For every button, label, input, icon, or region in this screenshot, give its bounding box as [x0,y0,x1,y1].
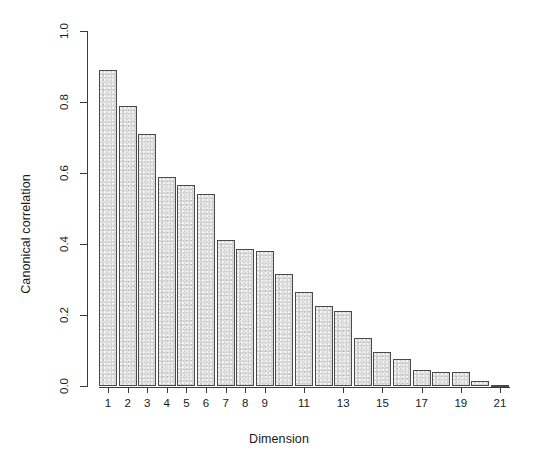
x-axis-tick-label: 11 [289,396,319,410]
x-axis-tick [265,387,266,393]
y-axis-tick [80,386,88,387]
bar [491,385,509,387]
bar [295,292,313,386]
bar [197,194,215,386]
y-axis-label: Canonical correlation [14,0,38,468]
bar [432,372,450,386]
x-axis-tick-label: 13 [328,396,358,410]
x-axis-tick-label: 9 [250,396,280,410]
y-axis-tick-label-wrap: 0.6 [52,166,76,180]
bar [354,338,372,386]
bar-chart: Canonical correlation Dimension 0.00.20.… [0,0,558,468]
bar [99,70,117,386]
bar [236,249,254,386]
x-axis-tick [186,387,187,393]
y-axis-tick-label-wrap: 0.8 [52,95,76,109]
y-axis-line [87,31,88,386]
x-axis-tick [422,387,423,393]
x-axis-label: Dimension [0,432,558,446]
x-axis-tick [226,387,227,393]
bar [217,240,235,386]
y-axis-tick-label: 0.2 [57,295,71,335]
x-axis-tick-label: 17 [407,396,437,410]
bar [315,306,333,386]
y-axis-tick [80,315,88,316]
x-axis-tick [500,387,501,393]
bar [334,311,352,386]
bar [413,370,431,386]
bar [471,381,489,386]
y-axis-tick-label: 1.0 [57,11,71,51]
y-axis-tick-label: 0.4 [57,224,71,264]
bar [138,134,156,386]
x-axis-tick-label: 15 [367,396,397,410]
bar [275,274,293,386]
y-axis-tick-label-wrap: 0.4 [52,237,76,251]
x-axis-tick [343,387,344,393]
x-axis-tick [461,387,462,393]
bar [373,352,391,386]
y-axis-tick [80,244,88,245]
x-axis-tick [304,387,305,393]
y-axis-tick-label: 0.6 [57,153,71,193]
x-axis-tick [245,387,246,393]
x-axis-tick [167,387,168,393]
y-axis-tick-label: 0.8 [57,82,71,122]
x-axis-tick [206,387,207,393]
y-axis-tick [80,102,88,103]
y-axis-tick-label-wrap: 1.0 [52,24,76,38]
y-axis-tick-label-wrap: 0.2 [52,308,76,322]
y-axis-tick-label: 0.0 [57,366,71,406]
bar [158,177,176,386]
x-axis-tick [382,387,383,393]
x-axis-tick [128,387,129,393]
x-axis-tick-label: 21 [485,396,515,410]
bar [256,251,274,386]
y-axis-tick [80,31,88,32]
y-axis-tick [80,173,88,174]
bar [393,359,411,386]
bar [119,106,137,386]
x-axis-tick [147,387,148,393]
bar [177,185,195,386]
bar [452,372,470,386]
x-axis-tick-label: 19 [446,396,476,410]
x-axis-tick [108,387,109,393]
y-axis-tick-label-wrap: 0.0 [52,379,76,393]
